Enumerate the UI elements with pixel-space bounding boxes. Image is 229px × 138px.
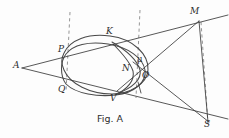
point-label-M: M — [190, 7, 199, 16]
line-A-Q-V-S-extended — [22, 68, 228, 119]
point-label-O: O — [142, 71, 149, 80]
conic-curves — [62, 35, 149, 95]
point-label-S: S — [204, 120, 210, 129]
figure-caption: Fig. A — [97, 114, 123, 124]
point-label-mu: μ — [137, 55, 143, 64]
line-M-to-S — [199, 21, 208, 122]
point-label-V: V — [110, 94, 117, 103]
dashed-guide-lines — [66, 10, 208, 124]
oval-outer — [62, 35, 148, 94]
figure-container: A P Q K N μ O V M S Fig. A — [0, 0, 229, 138]
point-label-K: K — [106, 27, 113, 36]
line-M-through-N-O — [117, 21, 199, 91]
point-label-A: A — [13, 61, 20, 70]
point-label-N: N — [122, 64, 130, 73]
point-label-P: P — [58, 45, 64, 54]
point-label-Q: Q — [58, 85, 65, 94]
